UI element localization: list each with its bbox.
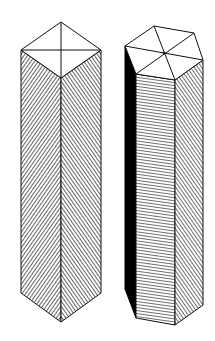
- square-prism: [21, 22, 101, 322]
- hex-prism-right-face: [175, 60, 203, 325]
- square-prism-right-face: [61, 50, 101, 322]
- hex-top-center-point: [163, 52, 165, 54]
- hex-prism-front-face: [136, 74, 175, 325]
- figure-canvas: [0, 0, 215, 341]
- hexagonal-prism: [125, 26, 203, 325]
- square-prism-left-face: [21, 50, 61, 322]
- hex-prism-shadow-face: [125, 46, 136, 318]
- prisms-diagram: [0, 0, 215, 341]
